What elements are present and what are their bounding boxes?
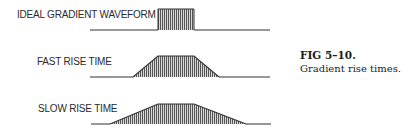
figure-number: FIG 5–10. xyxy=(300,49,401,62)
ideal-waveform-label: IDEAL GRADIENT WAVEFORM xyxy=(17,9,156,20)
figure-caption: FIG 5–10. Gradient rise times. xyxy=(300,49,401,75)
slow-rise-label: SLOW RISE TIME xyxy=(38,103,117,114)
caption-text: Gradient rise times. xyxy=(300,62,401,75)
fast-rise-label: FAST RISE TIME xyxy=(37,56,112,67)
fast-rise-waveform xyxy=(90,56,270,77)
slow-rise-waveform xyxy=(91,104,271,124)
